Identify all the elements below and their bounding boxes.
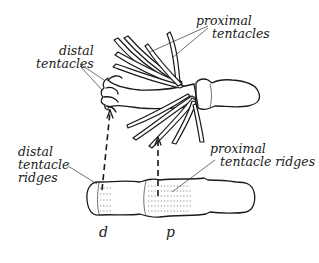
distal-ridges-pointer (68, 166, 97, 184)
label-proximal-tentacles: proximal tentacles (196, 14, 270, 40)
upper-polyp (101, 32, 259, 148)
hydroid-diagram (0, 0, 319, 263)
lower-polyp (87, 178, 255, 217)
label-distal-tentacle-ridges: distal tentacle ridges (18, 145, 69, 184)
diagram-canvas: distal tentacles proximal tentacles dist… (0, 0, 319, 263)
label-proximal-tentacle-ridges: proximal tentacle ridges (210, 142, 315, 168)
marker-d: d (99, 226, 108, 239)
marker-p: p (166, 226, 175, 239)
label-distal-tentacles: distal tentacles (36, 44, 94, 70)
distal-dashed-arrow (102, 112, 110, 190)
